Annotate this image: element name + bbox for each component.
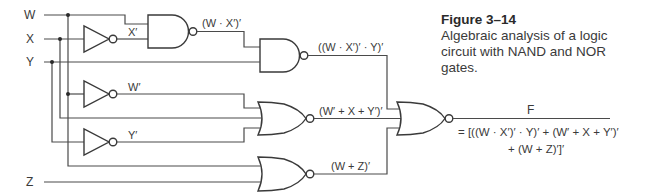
signal-label-nand2: ((W · X′)′ · Y)′ (318, 41, 383, 53)
nand-gate-2 (260, 39, 300, 72)
inverter-w-bubble (109, 90, 117, 98)
nand-gate-2-bubble (300, 52, 308, 60)
output-equation-line2: + (W + Z)′]′ (508, 142, 564, 156)
signal-label-nor2: (W + Z)′ (331, 160, 370, 172)
input-label-x: X (26, 33, 34, 45)
nor-gate-1-bubble (306, 115, 314, 123)
junction-x (58, 37, 62, 41)
signal-label-nand1: (W · X′)′ (202, 17, 241, 29)
input-label-w: W (24, 9, 35, 21)
wire-w-not (117, 94, 262, 108)
nor-gate-2-bubble (306, 170, 314, 178)
wire-x-tap (60, 39, 262, 118)
nor-gate-2 (258, 157, 306, 191)
input-label-y: Y (26, 56, 34, 68)
wire-nand1-out (197, 32, 260, 48)
junction-y (50, 60, 54, 64)
nor-gate-final-bubble (445, 115, 453, 123)
figure-number: Figure 3–14 (441, 12, 646, 28)
input-label-z: Z (26, 176, 33, 188)
output-equation-line1: = [((W · X′)′ · Y)′ + (W′ + X + Y′)′ (458, 125, 619, 139)
figure-caption: Figure 3–14 Algebraic analysis of a logi… (441, 12, 646, 76)
signal-label-x-not: X′ (128, 26, 137, 38)
caption-line-1: Algebraic analysis of a logic (441, 28, 646, 44)
inverter-w (84, 81, 109, 107)
junction-w (66, 13, 70, 17)
inverter-y (84, 129, 109, 155)
inverter-x (84, 26, 109, 52)
wire-y-not (117, 128, 262, 142)
signal-label-y-not: Y′ (128, 129, 137, 141)
signal-label-w-not: W′ (128, 81, 140, 93)
junction-w-inv (66, 92, 70, 96)
nor-gate-final (397, 102, 445, 135)
inverter-y-bubble (109, 138, 117, 146)
nand-gate-1 (148, 15, 189, 48)
output-label-f: F (527, 104, 534, 116)
nand-gate-1-bubble (189, 28, 197, 36)
caption-line-2: circuit with NAND and NOR gates. (441, 44, 646, 76)
inverter-x-bubble (109, 35, 117, 43)
wire-w (44, 15, 148, 24)
nor-gate-1 (258, 102, 306, 135)
signal-label-nor1: (W′ + X + Y′)′ (319, 105, 382, 117)
wire-nand2-out (308, 56, 402, 110)
